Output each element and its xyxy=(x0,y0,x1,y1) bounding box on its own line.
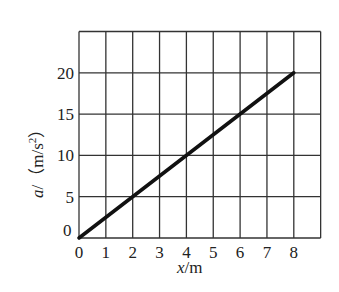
x-tick-label: 7 xyxy=(263,243,272,262)
x-tick-label: 2 xyxy=(128,243,137,262)
y-tick-label: 15 xyxy=(57,105,74,124)
x-tick-label: 3 xyxy=(155,243,164,262)
chart: 012345678 5101520 0 x/m a/（m/s2） xyxy=(0,0,339,292)
y-axis-unit-close: ） xyxy=(28,121,47,138)
x-tick-label: 5 xyxy=(209,243,218,262)
y-axis-unit: /（m/s xyxy=(28,143,47,189)
x-tick-label: 8 xyxy=(290,243,299,262)
y-tick-label: 20 xyxy=(57,64,74,83)
y-tick-label: 5 xyxy=(66,188,75,207)
y-tick-labels: 5101520 xyxy=(57,64,74,207)
y-axis-label: a/（m/s2） xyxy=(26,121,47,198)
x-axis-label: x/m xyxy=(176,258,203,277)
grid xyxy=(79,32,321,239)
x-tick-label: 0 xyxy=(75,243,84,262)
y-tick-label: 10 xyxy=(57,146,74,165)
y-axis-var: a xyxy=(28,190,47,199)
x-axis-unit: /m xyxy=(185,258,203,277)
y-origin-label: 0 xyxy=(63,221,72,240)
x-tick-label: 6 xyxy=(236,243,245,262)
x-tick-label: 1 xyxy=(102,243,111,262)
